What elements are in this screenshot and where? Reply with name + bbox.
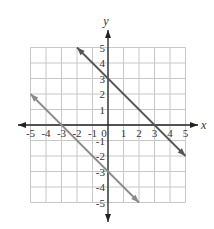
y-tick-label: 2 <box>100 88 106 100</box>
series-line <box>31 94 140 203</box>
y-tick-label: -5 <box>96 197 106 209</box>
y-tick-label: 1 <box>100 104 106 116</box>
y-tick-label: 4 <box>100 57 106 69</box>
y-tick-label: -4 <box>96 181 106 193</box>
x-tick-label: -2 <box>72 127 81 139</box>
y-axis-up-arrow-icon <box>105 30 111 38</box>
y-tick-label: -1 <box>96 135 105 147</box>
x-tick-label: -3 <box>57 127 67 139</box>
series-line <box>77 48 186 157</box>
x-tick-label: -5 <box>26 127 36 139</box>
x-axis-left-arrow-icon <box>18 122 26 128</box>
x-tick-label: 5 <box>183 127 189 139</box>
y-axis-down-arrow-icon <box>105 214 111 222</box>
x-tick-label: 1 <box>121 127 127 139</box>
y-tick-label: 5 <box>100 42 106 54</box>
y-axis-label: y <box>102 14 109 28</box>
axes <box>18 30 198 222</box>
y-tick-label: -3 <box>96 166 106 178</box>
x-tick-label: 3 <box>152 127 158 139</box>
y-tick-label: 3 <box>100 73 106 85</box>
x-tick-label: -4 <box>41 127 51 139</box>
x-axis-label: x <box>200 118 207 132</box>
x-tick-label: 2 <box>136 127 142 139</box>
coordinate-plane: -5-4-3-2-101234554321-1-2-3-4-5xy <box>0 0 214 229</box>
y-tick-label: -2 <box>96 150 105 162</box>
x-axis-right-arrow-icon <box>190 122 198 128</box>
x-tick-label: 4 <box>167 127 173 139</box>
